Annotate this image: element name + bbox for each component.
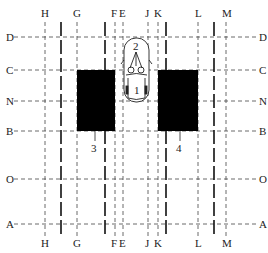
label-top-K: K (154, 8, 162, 19)
label-top-G: G (73, 8, 81, 19)
label-bottom-H: H (41, 238, 49, 249)
label-right-N: N (259, 96, 267, 107)
label-right-O: O (259, 174, 267, 185)
block-3 (77, 70, 115, 131)
label-bottom-F: F (111, 238, 117, 249)
label-top-E: E (119, 8, 126, 19)
label-left-O: O (6, 174, 14, 185)
label-bottom-L: L (195, 238, 202, 249)
label-right-D: D (259, 32, 267, 43)
block-3-label: 3 (91, 143, 97, 154)
label-top-M: M (222, 8, 232, 19)
label-top-F: F (111, 8, 117, 19)
label-left-D: D (6, 32, 14, 43)
label-left-C: C (6, 65, 13, 76)
grid-diagram (0, 0, 268, 253)
label-bottom-K: K (154, 238, 162, 249)
car-label-front: 2 (133, 41, 139, 52)
label-bottom-G: G (73, 238, 81, 249)
label-right-B: B (259, 126, 266, 137)
label-left-N: N (6, 96, 14, 107)
label-right-C: C (259, 65, 266, 76)
label-top-L: L (195, 8, 202, 19)
label-left-A: A (6, 219, 14, 230)
car-label-rear: 1 (134, 85, 140, 96)
label-bottom-E: E (119, 238, 126, 249)
block-4-label: 4 (176, 143, 182, 154)
label-top-H: H (41, 8, 49, 19)
block-4 (158, 70, 198, 131)
label-left-B: B (6, 126, 13, 137)
label-bottom-J: J (145, 238, 149, 249)
label-bottom-M: M (222, 238, 232, 249)
label-top-J: J (145, 8, 149, 19)
label-right-A: A (259, 219, 267, 230)
